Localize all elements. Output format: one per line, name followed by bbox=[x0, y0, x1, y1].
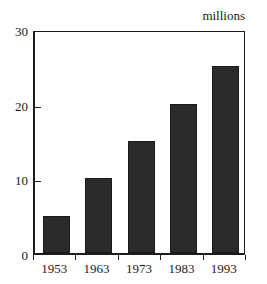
bar bbox=[43, 216, 70, 253]
chart-unit-label: millions bbox=[202, 9, 245, 22]
x-axis-tick-label: 1993 bbox=[203, 262, 245, 275]
x-axis-tick-label: 1963 bbox=[75, 262, 117, 275]
x-axis-tick bbox=[118, 255, 119, 260]
bar bbox=[85, 178, 112, 253]
y-axis-tick-label: 30 bbox=[0, 25, 28, 38]
bar-chart: millions 0102030 19531963197319831993 bbox=[0, 0, 267, 284]
bar bbox=[212, 66, 239, 253]
x-axis-tick bbox=[160, 255, 161, 260]
y-axis-tick-label: 20 bbox=[0, 100, 28, 113]
x-axis-tick bbox=[33, 255, 34, 260]
plot-area bbox=[35, 32, 244, 253]
x-axis-tick bbox=[75, 255, 76, 260]
plot-frame bbox=[33, 31, 245, 255]
y-axis-tick bbox=[35, 107, 41, 108]
bar bbox=[170, 104, 197, 253]
y-axis-tick-label: 0 bbox=[0, 249, 28, 262]
bar bbox=[128, 141, 155, 253]
x-axis-tick-label: 1973 bbox=[118, 262, 160, 275]
y-axis-tick bbox=[35, 181, 41, 182]
x-axis-tick bbox=[203, 255, 204, 260]
x-axis-tick bbox=[245, 255, 246, 260]
x-axis-tick-label: 1953 bbox=[33, 262, 75, 275]
x-axis-tick-label: 1983 bbox=[160, 262, 202, 275]
y-axis-tick-label: 10 bbox=[0, 174, 28, 187]
